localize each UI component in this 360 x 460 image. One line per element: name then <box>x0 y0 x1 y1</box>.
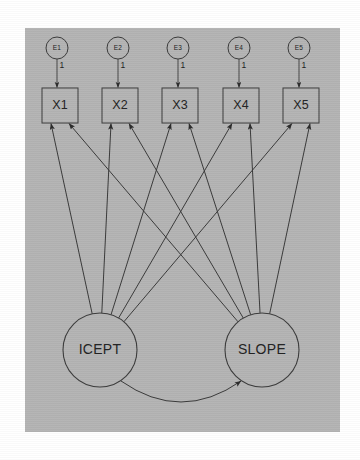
latent-label-icept: ICEPT <box>79 341 122 357</box>
indicator-label-x3: X3 <box>172 98 187 112</box>
error-label-e5: E5 <box>295 44 304 51</box>
error-label-e1: E1 <box>53 44 62 51</box>
path-diagram: 11111 E1E2E3E4E5X1X2X3X4X5ICEPTSLOPE <box>0 0 360 460</box>
figure-root: 11111 E1E2E3E4E5X1X2X3X4X5ICEPTSLOPE <box>0 0 360 460</box>
indicator-label-x5: X5 <box>293 98 308 112</box>
error-loading-label-e2: 1 <box>121 60 126 70</box>
latent-label-slope: SLOPE <box>238 341 286 357</box>
indicator-label-x1: X1 <box>52 98 67 112</box>
error-label-e2: E2 <box>114 44 123 51</box>
error-loading-label-e4: 1 <box>242 60 247 70</box>
error-loading-label-e3: 1 <box>181 60 186 70</box>
error-loading-label-e1: 1 <box>60 60 65 70</box>
error-loading-label-e5: 1 <box>302 60 307 70</box>
error-label-e4: E4 <box>235 44 244 51</box>
indicator-label-x4: X4 <box>233 98 248 112</box>
error-label-e3: E3 <box>174 44 183 51</box>
indicator-label-x2: X2 <box>112 98 127 112</box>
